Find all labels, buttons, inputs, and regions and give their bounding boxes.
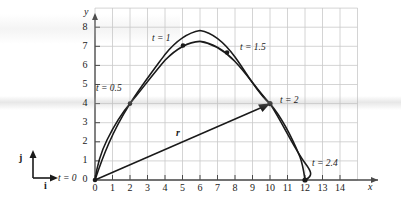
- x-tick-5: 5: [178, 182, 188, 193]
- y-axis-label: y: [84, 6, 88, 17]
- x-tick-14: 14: [333, 182, 347, 193]
- x-tick-2: 2: [125, 182, 135, 193]
- basis-vector-j-arrowhead: [30, 150, 37, 158]
- y-tick-2: 2: [80, 135, 90, 146]
- y-tick-7: 7: [80, 40, 90, 51]
- x-tick-4: 4: [160, 182, 170, 193]
- grid-horizontal: [95, 8, 358, 180]
- label-t-15: t = 1.5: [240, 42, 266, 52]
- x-tick-11: 11: [281, 182, 295, 193]
- x-tick-8: 8: [230, 182, 240, 193]
- y-tick-5: 5: [80, 78, 90, 89]
- basis-vector-i-arrowhead: [50, 175, 58, 182]
- grid-vertical: [95, 8, 358, 180]
- x-tick-6: 6: [195, 182, 205, 193]
- basis-vector-i-label: i: [44, 180, 47, 191]
- basis-vector-j-label: j: [19, 152, 22, 163]
- y-axis-ticks: [95, 27, 100, 161]
- marker-t05: [128, 101, 133, 106]
- y-tick-6: 6: [80, 59, 90, 70]
- figure-projectile-trajectory: 0 1 2 3 4 5 6 7 8 9 10 11 12 13 14 0 1 2…: [0, 0, 401, 206]
- y-tick-8: 8: [80, 21, 90, 32]
- x-tick-1: 1: [108, 182, 118, 193]
- y-tick-4: 4: [80, 97, 90, 108]
- marker-t1: [181, 43, 186, 48]
- y-tick-1: 1: [80, 154, 90, 165]
- y-axis-arrowhead: [92, 13, 98, 20]
- x-tick-12: 12: [298, 182, 312, 193]
- x-axis-label: x: [368, 181, 372, 192]
- x-tick-0: 0: [90, 182, 100, 193]
- label-t-0: t = 0: [58, 173, 77, 183]
- y-tick-0: 0: [80, 173, 90, 184]
- x-tick-9: 9: [248, 182, 258, 193]
- axis-lines: [95, 15, 378, 180]
- label-t-05: t = 0.5: [96, 83, 122, 93]
- label-t-24: t = 2.4: [312, 158, 338, 168]
- label-t-2: t = 2: [280, 95, 299, 105]
- x-tick-10: 10: [263, 182, 277, 193]
- x-tick-7: 7: [213, 182, 223, 193]
- trajectory-curve: [95, 31, 311, 181]
- x-tick-3: 3: [143, 182, 153, 193]
- position-vector-label: r: [176, 127, 180, 138]
- y-tick-3: 3: [80, 116, 90, 127]
- label-t-1: t = 1: [152, 33, 171, 43]
- marker-t15: [225, 50, 230, 55]
- marker-t2: [267, 101, 272, 106]
- x-tick-13: 13: [316, 182, 330, 193]
